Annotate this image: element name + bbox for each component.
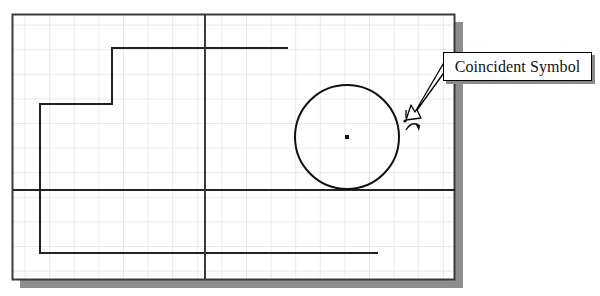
callout-label: Coincident Symbol bbox=[455, 59, 581, 75]
paper-grid bbox=[12, 14, 455, 280]
circle-center-point bbox=[345, 135, 349, 139]
callout-box[interactable]: Coincident Symbol bbox=[443, 52, 592, 81]
cad-sketch-illustration bbox=[0, 0, 600, 296]
screenshot-stage: Coincident Symbol bbox=[0, 0, 600, 296]
